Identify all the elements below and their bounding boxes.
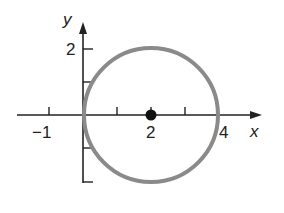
y-axis-arrow-icon <box>79 22 87 34</box>
x-ticks <box>49 107 218 115</box>
x-tick-label-2: 2 <box>146 123 155 142</box>
x-axis-arrow-icon <box>250 111 262 119</box>
x-tick-label-4: 4 <box>219 123 228 142</box>
y-tick-label-2: 2 <box>66 40 75 59</box>
y-axis-label: y <box>62 10 73 29</box>
x-tick-label-neg1: −1 <box>32 123 51 142</box>
coordinate-plane: y x 2 −1 2 4 <box>0 0 284 213</box>
x-axis-label: x <box>249 122 259 141</box>
center-point <box>146 110 157 121</box>
